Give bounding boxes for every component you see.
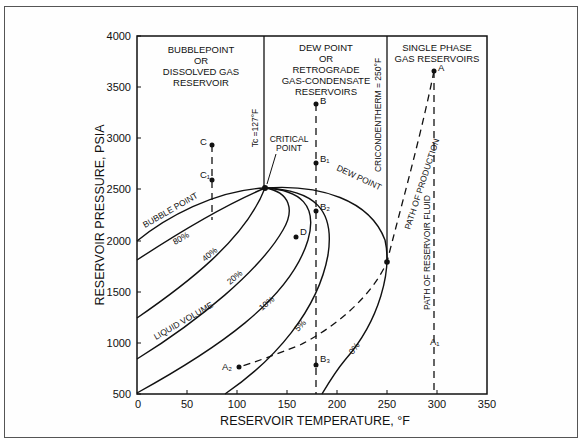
bubble-point-label: BUBBLE POINT (141, 190, 200, 230)
svg-text:DEW POINT: DEW POINT (299, 42, 353, 53)
y-axis-title: RESERVOIR PRESSURE, PSIA (93, 124, 107, 306)
svg-text:RESERVOIR: RESERVOIR (173, 77, 229, 88)
pct80-label: 80% (171, 229, 191, 246)
y-tick-500: 500 (113, 388, 131, 400)
tc-label: Tc =127°F (250, 109, 260, 148)
point-b2 (314, 209, 319, 214)
liquid-volume-label: LIQUID VOLUME (152, 300, 215, 342)
y-tick-2500: 2500 (107, 183, 131, 195)
svg-text:OR: OR (194, 55, 208, 66)
x-tick-250: 250 (378, 398, 396, 410)
x-tick-350: 350 (478, 398, 496, 410)
quality-40-curve (137, 188, 265, 318)
point-a2 (237, 365, 242, 370)
x-tick-300: 300 (428, 398, 446, 410)
cricondentherm-label: CRICONDENTHERM = 250°F (373, 58, 383, 172)
quality-80-curve (137, 188, 265, 260)
region-bubblepoint: BUBBLEPOINT OR DISSOLVED GAS RESERVOIR (163, 44, 239, 88)
x-tick-150: 150 (278, 398, 296, 410)
svg-text:GAS RESERVOIRS: GAS RESERVOIRS (395, 53, 480, 64)
pct0-label: 0% (346, 340, 361, 356)
label-d: D (300, 226, 307, 237)
y-tick-2000: 2000 (107, 235, 131, 247)
critical-point (262, 185, 268, 191)
svg-text:OR: OR (319, 53, 333, 64)
region-single-phase: SINGLE PHASE GAS RESERVOIRS (395, 42, 480, 64)
x-tick-0: 0 (135, 398, 141, 410)
label-b: B (320, 95, 326, 106)
x-axis-title: RESERVOIR TEMPERATURE, °F (220, 414, 410, 428)
point-c (210, 143, 215, 148)
label-a: A (438, 62, 445, 73)
point-b (314, 102, 319, 107)
svg-text:DISSOLVED GAS: DISSOLVED GAS (163, 66, 239, 77)
label-c1: C₁ (200, 169, 210, 180)
pct20-label: 20% (225, 268, 245, 287)
label-b2: B₂ (320, 201, 330, 212)
phase-diagram-chart: 500 1000 1500 2000 2500 3000 3500 4000 0… (0, 0, 584, 444)
critical-arrow (267, 154, 276, 184)
label-b3: B₃ (320, 353, 330, 364)
label-c: C (200, 136, 207, 147)
svg-text:SINGLE PHASE: SINGLE PHASE (402, 42, 472, 53)
pct5-label: 5% (292, 317, 308, 333)
pct40-label: 40% (200, 245, 220, 264)
y-tick-3000: 3000 (107, 132, 131, 144)
point-b3 (314, 363, 319, 368)
y-tick-4000: 4000 (107, 30, 131, 42)
x-tick-200: 200 (328, 398, 346, 410)
y-tick-1500: 1500 (107, 286, 131, 298)
point-c1 (210, 178, 215, 183)
svg-text:GAS-CONDENSATE: GAS-CONDENSATE (282, 75, 371, 86)
region-dewpoint: DEW POINT OR RETROGRADE GAS-CONDENSATE R… (282, 42, 371, 97)
path-fluid-label: PATH OF RESERVOIR FLUID (422, 195, 432, 310)
svg-text:BUBBLEPOINT: BUBBLEPOINT (168, 44, 235, 55)
y-tick-3500: 3500 (107, 81, 131, 93)
label-a2: A₂ (222, 361, 232, 372)
quality-5-curve (225, 188, 329, 394)
point-b1 (314, 161, 319, 166)
label-b1: B₁ (320, 153, 330, 164)
point-d (294, 235, 299, 240)
label-a1: A₁ (430, 336, 440, 347)
x-tick-100: 100 (228, 398, 246, 410)
cricondentherm-point (384, 259, 390, 265)
y-tick-1000: 1000 (107, 337, 131, 349)
point-a (432, 69, 437, 74)
x-tick-50: 50 (181, 398, 193, 410)
critical-label-2: POINT (276, 143, 302, 153)
svg-text:RETROGRADE: RETROGRADE (292, 64, 359, 75)
